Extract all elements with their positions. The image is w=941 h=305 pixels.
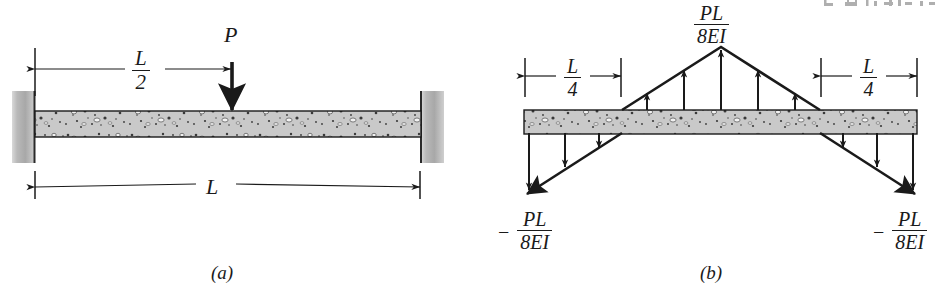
dimension-label-full-span: L: [206, 174, 218, 200]
dimension-label-half-span: L 2: [132, 48, 150, 93]
beam-bending-figure: P L 2 L (a) PL 8EI L 4 L 4 − PL: [0, 0, 941, 305]
downward-ordinate-arrows-left: [529, 133, 599, 190]
downward-ordinate-arrows-right: [843, 133, 913, 190]
caption-panel-a: (a): [211, 262, 233, 284]
quarter-right-denominator: 4: [860, 78, 877, 99]
quarter-left-denominator: 4: [564, 78, 581, 99]
beam-member-a: [35, 111, 421, 137]
caption-panel-b: (b): [700, 262, 722, 284]
negative-moment-triangle-right: [820, 133, 915, 194]
peak-value-label: PL 8EI: [694, 3, 729, 46]
fixed-support-right: [420, 91, 444, 163]
end-value-label-right: − PL 8EI: [873, 209, 927, 252]
negative-moment-triangle-left: [527, 133, 622, 194]
dimension-label-quarter-right: L 4: [860, 56, 877, 99]
scan-edge-artifact: [824, 0, 935, 6]
end-value-right-denominator: 8EI: [892, 231, 927, 252]
half-span-numerator: L: [132, 48, 150, 71]
end-value-right-numerator: PL: [892, 209, 927, 231]
half-span-denominator: 2: [132, 71, 150, 93]
end-value-left-sign: −: [498, 222, 512, 242]
peak-value-numerator: PL: [694, 3, 729, 25]
end-value-left-numerator: PL: [517, 209, 552, 231]
end-value-label-left: − PL 8EI: [498, 209, 552, 252]
peak-value-denominator: 8EI: [694, 25, 729, 46]
beam-member-b: [524, 110, 917, 134]
quarter-left-numerator: L: [564, 56, 581, 78]
panel-b-graphics: [524, 47, 917, 194]
load-label-P: P: [224, 22, 237, 48]
panel-a-graphics: [12, 48, 444, 199]
dimension-full-span: [35, 171, 420, 199]
fixed-support-left: [12, 91, 36, 163]
end-value-right-sign: −: [873, 222, 887, 242]
quarter-right-numerator: L: [860, 56, 877, 78]
dimension-label-quarter-left: L 4: [564, 56, 581, 99]
end-value-left-denominator: 8EI: [517, 231, 552, 252]
